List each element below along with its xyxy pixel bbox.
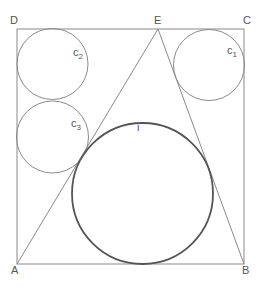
circle-c3 [17,101,89,173]
label-c3: c3 [71,117,82,132]
label-b: B [242,264,249,276]
label-i: i [137,121,139,133]
square-abcd [17,29,244,264]
circle-c2 [17,29,88,100]
geometry-diagram: D E C A B c1 c2 c3 i [0,0,265,291]
label-a: A [11,264,19,276]
label-e: E [154,14,161,26]
circle-c1 [174,30,245,101]
label-d: D [10,14,18,26]
incircle-i [72,123,213,264]
label-c: C [243,14,251,26]
label-c1: c1 [227,44,238,59]
label-c2: c2 [73,46,84,61]
segment-be [158,29,244,264]
